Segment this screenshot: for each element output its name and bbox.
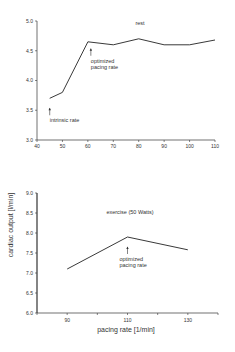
x-tick-label: 130	[184, 317, 193, 323]
y-tick-label: 3.0	[26, 137, 33, 143]
y-tick-label: 7.0	[26, 270, 33, 276]
y-tick-label: 6.0	[26, 310, 33, 316]
chart-title: exercise (50 Watts)	[106, 209, 153, 215]
y-tick-label: 6.5	[26, 290, 33, 296]
y-tick-label: 3.5	[26, 107, 33, 113]
y-tick-label: 4.5	[26, 48, 33, 54]
x-tick-label: 70	[111, 143, 117, 149]
data-line	[50, 39, 215, 99]
x-tick-label: 80	[136, 143, 142, 149]
y-axis-title: cardiac output [l/min]	[7, 193, 15, 258]
chart-title: rest	[135, 20, 145, 26]
x-tick-label: 110	[124, 317, 132, 323]
y-tick-label: 8.5	[26, 210, 33, 216]
annotation-label: pacing rate	[120, 262, 147, 268]
figure: cardiac output [l/min] pacing rate [1/mi…	[0, 0, 235, 352]
x-tick-label: 100	[185, 143, 194, 149]
y-tick-label: 8.0	[26, 230, 33, 236]
x-tick-label: 110	[211, 143, 219, 149]
exercise-chart: 6.06.57.07.58.08.59.090110130exercise (5…	[26, 190, 218, 323]
annotation-label: pacing rate	[91, 64, 118, 70]
y-tick-label: 5.0	[26, 18, 33, 24]
x-axis-title: pacing rate [1/min]	[97, 326, 155, 334]
y-tick-label: 9.0	[26, 190, 33, 196]
x-tick-label: 90	[161, 143, 167, 149]
y-tick-label: 4.0	[26, 77, 33, 83]
x-tick-label: 40	[34, 143, 40, 149]
x-tick-label: 50	[60, 143, 66, 149]
annotation-label: intrinsic rate	[50, 117, 80, 123]
y-tick-label: 7.5	[26, 250, 33, 256]
x-tick-label: 60	[85, 143, 91, 149]
x-tick-label: 90	[64, 317, 70, 323]
rest-chart: 3.03.54.04.55.0405060708090100110restint…	[26, 18, 219, 149]
